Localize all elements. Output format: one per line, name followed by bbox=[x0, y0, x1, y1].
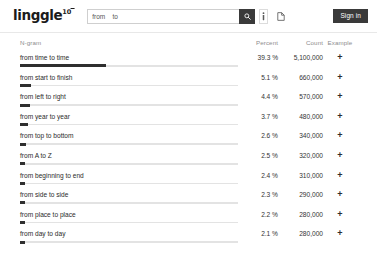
percent-bar-track bbox=[20, 163, 238, 165]
count-value: 310,000 bbox=[278, 172, 323, 179]
search-bar bbox=[87, 9, 286, 24]
percent-bar-fill bbox=[20, 84, 31, 87]
logo-tick-mark bbox=[70, 8, 75, 12]
percent-bar-fill bbox=[20, 201, 25, 204]
percent-bar-fill bbox=[20, 143, 26, 146]
percent-bar-fill bbox=[20, 123, 28, 126]
plus-icon[interactable]: + bbox=[337, 229, 342, 238]
count-value: 280,000 bbox=[278, 230, 323, 237]
ngram-text[interactable]: from place to place bbox=[20, 211, 238, 218]
percent-value: 5.1 % bbox=[238, 74, 278, 81]
percent-bar-track bbox=[20, 124, 238, 126]
plus-icon[interactable]: + bbox=[337, 210, 342, 219]
logo-wordmark: linggle bbox=[13, 7, 62, 23]
plus-icon[interactable]: + bbox=[337, 73, 342, 82]
table-row[interactable]: from beginning to end2.4 %310,000+ bbox=[20, 168, 357, 188]
table-body: from time to time39.3 %5,100,000+from st… bbox=[20, 50, 357, 246]
percent-bar-track bbox=[20, 143, 238, 145]
percent-value: 2.6 % bbox=[238, 132, 278, 139]
percent-bar-fill bbox=[20, 221, 25, 224]
percent-bar-track bbox=[20, 104, 238, 106]
ngram-text[interactable]: from start to finish bbox=[20, 74, 238, 81]
percent-value: 2.2 % bbox=[238, 211, 278, 218]
linggle-app: linggle10 bbox=[0, 0, 377, 256]
search-input-wrapper[interactable] bbox=[87, 9, 239, 24]
ngram-text[interactable]: from top to bottom bbox=[20, 132, 238, 139]
count-value: 570,000 bbox=[278, 93, 323, 100]
percent-bar-track bbox=[20, 222, 238, 224]
info-icon bbox=[261, 7, 266, 25]
table-row[interactable]: from top to bottom2.6 %340,000+ bbox=[20, 128, 357, 148]
ngram-text[interactable]: from side to side bbox=[20, 191, 238, 198]
table-row[interactable]: from year to year3.7 %480,000+ bbox=[20, 109, 357, 129]
count-value: 290,000 bbox=[278, 191, 323, 198]
table-row[interactable]: from A to Z2.5 %320,000+ bbox=[20, 148, 357, 168]
table-row[interactable]: from place to place2.2 %280,000+ bbox=[20, 207, 357, 227]
column-header-count: Count bbox=[278, 39, 323, 46]
plus-icon[interactable]: + bbox=[337, 131, 342, 140]
percent-bar-fill bbox=[20, 182, 25, 185]
ngram-text[interactable]: from day to day bbox=[20, 230, 238, 237]
app-header: linggle10 bbox=[0, 0, 377, 33]
ngram-text[interactable]: from A to Z bbox=[20, 152, 238, 159]
table-row[interactable]: from time to time39.3 %5,100,000+ bbox=[20, 50, 357, 70]
percent-value: 4.4 % bbox=[238, 93, 278, 100]
ngram-text[interactable]: from year to year bbox=[20, 113, 238, 120]
ngram-text[interactable]: from beginning to end bbox=[20, 172, 238, 179]
search-button[interactable] bbox=[239, 9, 255, 24]
signin-button[interactable]: Sign in bbox=[333, 9, 368, 24]
percent-bar-track bbox=[20, 85, 238, 87]
percent-value: 2.5 % bbox=[238, 152, 278, 159]
percent-value: 2.1 % bbox=[238, 230, 278, 237]
plus-icon[interactable]: + bbox=[337, 151, 342, 160]
table-header-row: N-gram Percent Count Example bbox=[20, 39, 357, 50]
column-header-ngram: N-gram bbox=[20, 39, 238, 46]
percent-bar-fill bbox=[20, 241, 25, 244]
count-value: 480,000 bbox=[278, 113, 323, 120]
info-button[interactable] bbox=[259, 9, 268, 24]
percent-bar-track bbox=[20, 65, 238, 67]
count-value: 5,100,000 bbox=[278, 54, 323, 61]
ngram-text[interactable]: from left to right bbox=[20, 93, 238, 100]
document-button[interactable] bbox=[275, 9, 286, 24]
plus-icon[interactable]: + bbox=[337, 112, 342, 121]
percent-bar-fill bbox=[20, 64, 106, 67]
percent-bar-fill bbox=[20, 104, 30, 107]
plus-icon[interactable]: + bbox=[337, 190, 342, 199]
table-row[interactable]: from start to finish5.1 %660,000+ bbox=[20, 70, 357, 90]
column-header-example: Example bbox=[323, 39, 357, 46]
percent-bar-track bbox=[20, 241, 238, 243]
table-row[interactable]: from side to side2.3 %290,000+ bbox=[20, 187, 357, 207]
results-table: N-gram Percent Count Example from time t… bbox=[0, 39, 377, 246]
search-icon bbox=[244, 13, 251, 20]
percent-bar-track bbox=[20, 183, 238, 185]
percent-value: 39.3 % bbox=[238, 54, 278, 61]
plus-icon[interactable]: + bbox=[337, 53, 342, 62]
document-icon bbox=[277, 7, 285, 25]
search-input[interactable] bbox=[92, 13, 235, 20]
percent-bar-fill bbox=[20, 162, 25, 165]
linggle-logo[interactable]: linggle10 bbox=[13, 9, 73, 23]
table-row[interactable]: from day to day2.1 %280,000+ bbox=[20, 226, 357, 246]
plus-icon[interactable]: + bbox=[337, 92, 342, 101]
count-value: 280,000 bbox=[278, 211, 323, 218]
table-row[interactable]: from left to right4.4 %570,000+ bbox=[20, 89, 357, 109]
count-value: 340,000 bbox=[278, 132, 323, 139]
count-value: 320,000 bbox=[278, 152, 323, 159]
percent-bar-track bbox=[20, 202, 238, 204]
plus-icon[interactable]: + bbox=[337, 171, 342, 180]
column-header-percent: Percent bbox=[238, 39, 278, 46]
percent-value: 2.3 % bbox=[238, 191, 278, 198]
percent-value: 3.7 % bbox=[238, 113, 278, 120]
percent-value: 2.4 % bbox=[238, 172, 278, 179]
count-value: 660,000 bbox=[278, 74, 323, 81]
ngram-text[interactable]: from time to time bbox=[20, 54, 238, 61]
